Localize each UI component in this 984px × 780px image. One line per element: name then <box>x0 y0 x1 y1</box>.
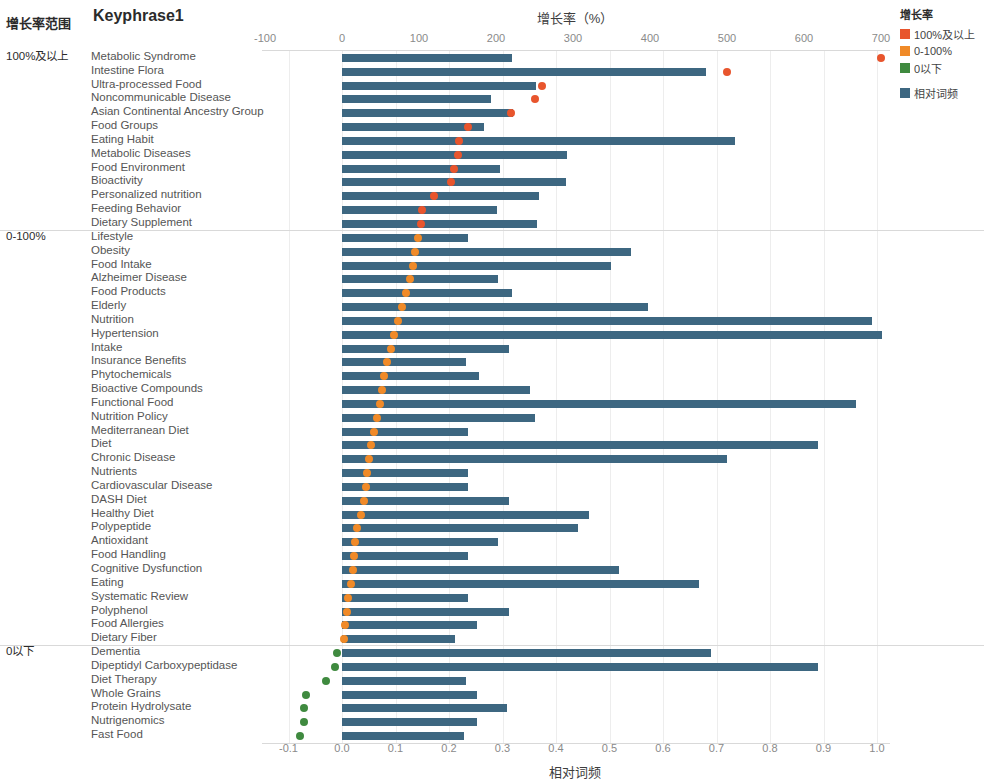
bar[interactable] <box>342 414 535 422</box>
row-label[interactable]: Feeding Behavior <box>91 202 181 215</box>
row-label[interactable]: Dietary Supplement <box>91 216 192 229</box>
row-label[interactable]: Nutrition Policy <box>91 410 168 423</box>
row-label[interactable]: Cognitive Dysfunction <box>91 562 202 575</box>
bar[interactable] <box>342 234 468 242</box>
bar[interactable] <box>342 331 882 339</box>
growth-rate-dot[interactable] <box>333 649 341 657</box>
row-label[interactable]: Personalized nutrition <box>91 188 202 201</box>
bar[interactable] <box>342 469 468 477</box>
bar[interactable] <box>342 165 500 173</box>
row-label[interactable]: Functional Food <box>91 396 173 409</box>
legend-item[interactable]: 相对词频 <box>900 85 984 101</box>
bar[interactable] <box>342 691 477 699</box>
bar[interactable] <box>342 594 468 602</box>
row-label[interactable]: Diet Therapy <box>91 673 157 686</box>
bar[interactable] <box>342 677 466 685</box>
growth-rate-dot[interactable] <box>300 718 308 726</box>
growth-rate-dot[interactable] <box>464 123 472 131</box>
row-label[interactable]: DASH Diet <box>91 493 147 506</box>
row-label[interactable]: Eating Habit <box>91 133 154 146</box>
bar[interactable] <box>342 358 466 366</box>
row-label[interactable]: Dipeptidyl Carboxypeptidase <box>91 659 237 672</box>
row-label[interactable]: Food Allergies <box>91 617 164 630</box>
growth-rate-dot[interactable] <box>387 345 395 353</box>
row-label[interactable]: Dementia <box>91 645 140 658</box>
bar[interactable] <box>342 82 536 90</box>
growth-rate-dot[interactable] <box>411 248 419 256</box>
legend-item[interactable]: 0以下 <box>900 60 984 76</box>
growth-rate-dot[interactable] <box>455 137 463 145</box>
bar[interactable] <box>342 428 468 436</box>
row-label[interactable]: Food Groups <box>91 119 158 132</box>
bar[interactable] <box>342 441 818 449</box>
bar[interactable] <box>342 386 530 394</box>
bar[interactable] <box>342 68 706 76</box>
bar[interactable] <box>342 54 512 62</box>
bar[interactable] <box>342 137 735 145</box>
bar[interactable] <box>342 220 537 228</box>
growth-rate-dot[interactable] <box>531 95 539 103</box>
bar[interactable] <box>342 649 711 657</box>
growth-rate-dot[interactable] <box>300 704 308 712</box>
row-label[interactable]: Obesity <box>91 244 130 257</box>
growth-rate-dot[interactable] <box>296 732 304 740</box>
row-label[interactable]: Systematic Review <box>91 590 188 603</box>
row-label[interactable]: Food Intake <box>91 258 152 271</box>
bar[interactable] <box>342 524 578 532</box>
growth-rate-dot[interactable] <box>538 82 546 90</box>
bar[interactable] <box>342 552 468 560</box>
row-label[interactable]: Metabolic Syndrome <box>91 50 196 63</box>
bar[interactable] <box>342 538 498 546</box>
growth-rate-dot[interactable] <box>362 483 370 491</box>
row-label[interactable]: Food Products <box>91 285 166 298</box>
row-label[interactable]: Hypertension <box>91 327 159 340</box>
bar[interactable] <box>342 123 484 131</box>
row-label[interactable]: Nutrigenomics <box>91 714 165 727</box>
bar[interactable] <box>342 289 512 297</box>
row-label[interactable]: Phytochemicals <box>91 368 172 381</box>
growth-rate-dot[interactable] <box>376 400 384 408</box>
row-label[interactable]: Healthy Diet <box>91 507 154 520</box>
row-label[interactable]: Protein Hydrolysate <box>91 700 191 713</box>
row-label[interactable]: Nutrients <box>91 465 137 478</box>
growth-rate-dot[interactable] <box>507 109 515 117</box>
row-label[interactable]: Polyphenol <box>91 604 148 617</box>
bar[interactable] <box>342 718 477 726</box>
growth-rate-dot[interactable] <box>723 68 731 76</box>
growth-rate-dot[interactable] <box>414 234 422 242</box>
growth-rate-dot[interactable] <box>302 691 310 699</box>
row-label[interactable]: Mediterranean Diet <box>91 424 189 437</box>
row-label[interactable]: Eating <box>91 576 124 589</box>
growth-rate-dot[interactable] <box>370 428 378 436</box>
bar[interactable] <box>342 455 727 463</box>
bar[interactable] <box>342 248 631 256</box>
row-label[interactable]: Dietary Fiber <box>91 631 157 644</box>
bar[interactable] <box>342 345 509 353</box>
bar[interactable] <box>342 109 513 117</box>
growth-rate-dot[interactable] <box>877 54 885 62</box>
row-label[interactable]: Polypeptide <box>91 520 151 533</box>
growth-rate-dot[interactable] <box>343 608 351 616</box>
bar[interactable] <box>342 580 699 588</box>
growth-rate-dot[interactable] <box>417 220 425 228</box>
bar[interactable] <box>342 303 648 311</box>
bar[interactable] <box>342 400 856 408</box>
row-label[interactable]: Whole Grains <box>91 687 161 700</box>
bar[interactable] <box>342 663 818 671</box>
row-label[interactable]: Insurance Benefits <box>91 354 186 367</box>
bar[interactable] <box>342 621 477 629</box>
bar[interactable] <box>342 511 589 519</box>
growth-rate-dot[interactable] <box>357 511 365 519</box>
row-label[interactable]: Antioxidant <box>91 534 148 547</box>
bar[interactable] <box>342 262 611 270</box>
row-label[interactable]: Metabolic Diseases <box>91 147 191 160</box>
bar[interactable] <box>342 483 468 491</box>
row-label[interactable]: Intake <box>91 341 122 354</box>
growth-rate-dot[interactable] <box>454 151 462 159</box>
growth-rate-dot[interactable] <box>340 635 348 643</box>
row-label[interactable]: Alzheimer Disease <box>91 271 187 284</box>
growth-rate-dot[interactable] <box>322 677 330 685</box>
growth-rate-dot[interactable] <box>373 414 381 422</box>
bar[interactable] <box>342 704 507 712</box>
growth-rate-dot[interactable] <box>349 566 357 574</box>
